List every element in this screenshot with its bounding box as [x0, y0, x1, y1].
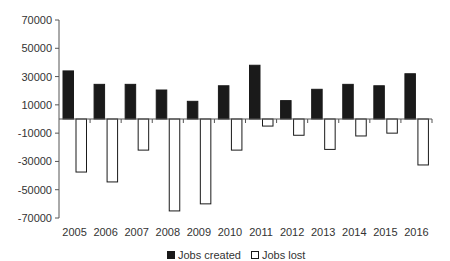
jobs-created-swatch-icon: [167, 251, 175, 259]
jobs-lost-bar: [76, 119, 87, 172]
jobs-lost-bar: [138, 119, 149, 150]
x-tick-label: 2016: [404, 226, 428, 238]
jobs-lost-bar: [107, 119, 118, 182]
y-tick-label: -50000: [18, 184, 52, 196]
jobs-lost-bar: [231, 119, 242, 150]
jobs-lost-bar: [169, 119, 180, 211]
y-tick-label: -70000: [18, 212, 52, 224]
legend-item-jobs-lost: Jobs lost: [251, 249, 305, 261]
jobs-created-bar: [94, 84, 105, 119]
jobs-created-bar: [343, 84, 354, 119]
jobs-lost-bar: [294, 119, 305, 135]
x-tick-label: 2011: [249, 226, 273, 238]
x-tick-label: 2005: [62, 226, 86, 238]
y-tick-label: 10000: [21, 99, 52, 111]
jobs-created-bar: [187, 101, 198, 119]
x-tick-label: 2013: [311, 226, 335, 238]
jobs-lost-bar: [325, 119, 336, 149]
legend-label: Jobs created: [178, 249, 241, 261]
y-axis: 70000500003000010000-10000-30000-50000-7…: [18, 14, 59, 224]
jobs-lost-bar: [418, 119, 429, 165]
jobs-created-bar: [405, 74, 416, 119]
jobs-lost-bar: [356, 119, 367, 136]
jobs-created-bar: [281, 101, 292, 119]
jobs-created-bar: [250, 65, 261, 119]
jobs-created-bar: [312, 89, 323, 119]
legend-label: Jobs lost: [262, 249, 305, 261]
y-tick-label: 70000: [21, 14, 52, 26]
jobs-created-bar: [125, 84, 135, 119]
legend-item-jobs-created: Jobs created: [167, 249, 241, 261]
jobs-lost-bar: [200, 119, 211, 204]
y-tick-label: 50000: [21, 42, 52, 54]
bar-chart: 70000500003000010000-10000-30000-50000-7…: [0, 0, 450, 261]
jobs-lost-bar: [263, 119, 274, 126]
x-tick-label: 2006: [93, 226, 117, 238]
x-tick-label: 2014: [342, 226, 366, 238]
y-tick-label: 30000: [21, 71, 52, 83]
x-tick-label: 2015: [373, 226, 397, 238]
legend: Jobs created Jobs lost: [167, 247, 315, 261]
jobs-lost-swatch-icon: [251, 251, 259, 259]
x-tick-label: 2010: [218, 226, 242, 238]
x-tick-label: 2012: [280, 226, 304, 238]
jobs-created-bar: [218, 86, 229, 119]
y-tick-label: -10000: [18, 127, 52, 139]
jobs-created-bar: [63, 71, 74, 119]
x-tick-label: 2008: [156, 226, 180, 238]
bars: [63, 65, 428, 211]
jobs-created-bar: [156, 90, 167, 119]
y-tick-label: -30000: [18, 155, 52, 167]
jobs-lost-bar: [387, 119, 398, 133]
x-tick-label: 2007: [124, 226, 148, 238]
x-tick-label: 2009: [187, 226, 211, 238]
jobs-created-bar: [374, 86, 385, 119]
